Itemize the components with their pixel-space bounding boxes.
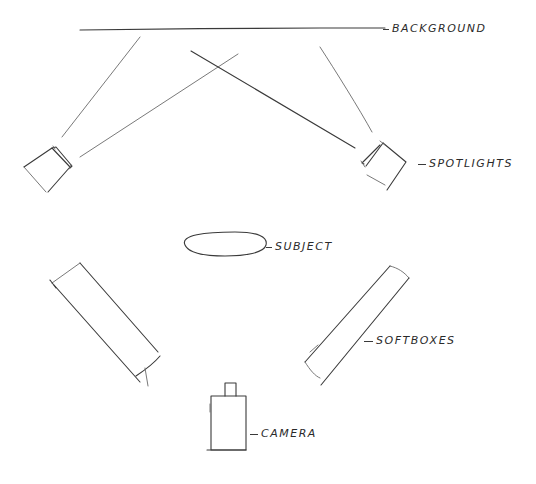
subject-ellipse	[184, 232, 266, 256]
spotlights-label-text: SPOTLIGHTS	[429, 157, 513, 170]
leader-line	[418, 164, 426, 165]
background-label: BACKGROUND	[383, 23, 487, 34]
camera-label: CAMERA	[250, 428, 317, 439]
softboxes-label-text: SOFTBOXES	[376, 334, 456, 347]
right-spotlight	[361, 141, 406, 190]
subject-label: SUBJECT	[266, 241, 333, 252]
right-softbox	[305, 266, 409, 385]
camera-label-text: CAMERA	[261, 427, 317, 440]
leader-line	[250, 434, 258, 435]
leader-line	[266, 247, 272, 248]
background-backdrop	[80, 28, 385, 30]
softboxes-label: SOFTBOXES	[364, 335, 456, 346]
leader-line	[383, 29, 389, 30]
leader-line	[364, 341, 373, 342]
right-spotlight-beam	[191, 47, 372, 148]
background-label-text: BACKGROUND	[392, 22, 487, 35]
left-softbox	[50, 263, 160, 386]
camera-body	[207, 396, 246, 450]
subject-label-text: SUBJECT	[275, 240, 333, 253]
left-spotlight	[24, 146, 72, 192]
camera-lens	[225, 383, 236, 396]
spotlights-label: SPOTLIGHTS	[418, 158, 513, 169]
left-spotlight-beam	[62, 37, 238, 157]
